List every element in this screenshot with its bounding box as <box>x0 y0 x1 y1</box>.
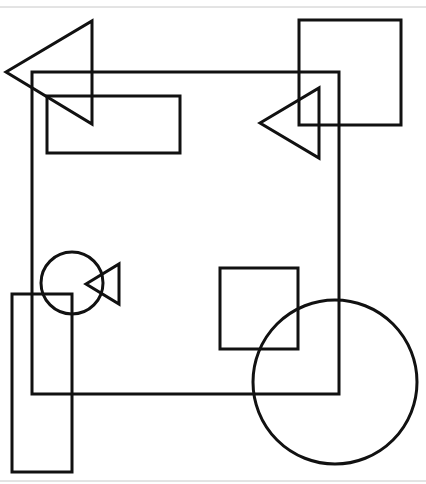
small-square <box>220 268 298 349</box>
large-square <box>32 72 339 394</box>
shapes-canvas <box>0 0 426 484</box>
triangle-right <box>260 88 319 158</box>
wide-rectangle <box>47 96 180 153</box>
tall-rectangle <box>12 294 72 472</box>
large-circle <box>253 300 417 464</box>
